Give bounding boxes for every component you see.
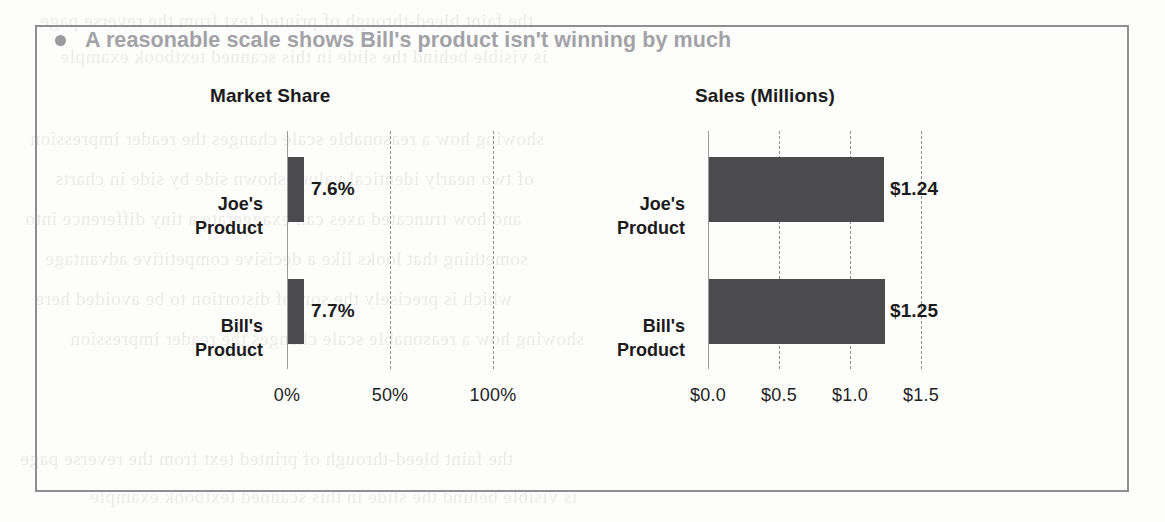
bar-joes-product — [288, 157, 304, 222]
category-label-bills: Bill's Product — [93, 315, 263, 363]
chart-content: Joe's Product Bill's Product 7.6% 7.7% 0… — [65, 85, 545, 415]
plot-area: 7.6% 7.7% — [287, 131, 502, 369]
x-tick-label-1-5: $1.5 — [903, 385, 939, 406]
bar-value-label-joes: $1.24 — [890, 178, 938, 200]
bar-value-label-bills: 7.7% — [311, 300, 355, 322]
x-tick-label-50pct: 50% — [372, 385, 409, 406]
gridline-100pct — [493, 131, 495, 369]
bar-value-label-joes: 7.6% — [311, 178, 355, 200]
bar-joes-product — [709, 157, 884, 222]
category-label-joes: Joe's Product — [515, 193, 685, 241]
chart-market-share: Market Share Joe's Product Bill's Produc… — [65, 85, 545, 415]
gridline-50pct — [390, 131, 392, 369]
bar-bills-product — [288, 279, 304, 344]
category-label-joes: Joe's Product — [93, 193, 263, 241]
bar-bills-product — [709, 279, 885, 344]
category-label-bills: Bill's Product — [515, 315, 685, 363]
plot-area: $1.24 $1.25 — [708, 131, 933, 369]
chart-content: Joe's Product Bill's Product $1.24 $1.25… — [545, 85, 1065, 415]
x-tick-label-0-0: $0.0 — [690, 385, 726, 406]
x-tick-label-0-5: $0.5 — [761, 385, 797, 406]
x-tick-label-1-0: $1.0 — [832, 385, 868, 406]
x-tick-label-100pct: 100% — [470, 385, 517, 406]
gridline-1-5 — [921, 131, 923, 369]
chart-sales-millions: Sales (Millions) Joe's Product Bill's Pr… — [545, 85, 1065, 415]
x-tick-label-0pct: 0% — [274, 385, 300, 406]
bar-value-label-bills: $1.25 — [890, 300, 938, 322]
